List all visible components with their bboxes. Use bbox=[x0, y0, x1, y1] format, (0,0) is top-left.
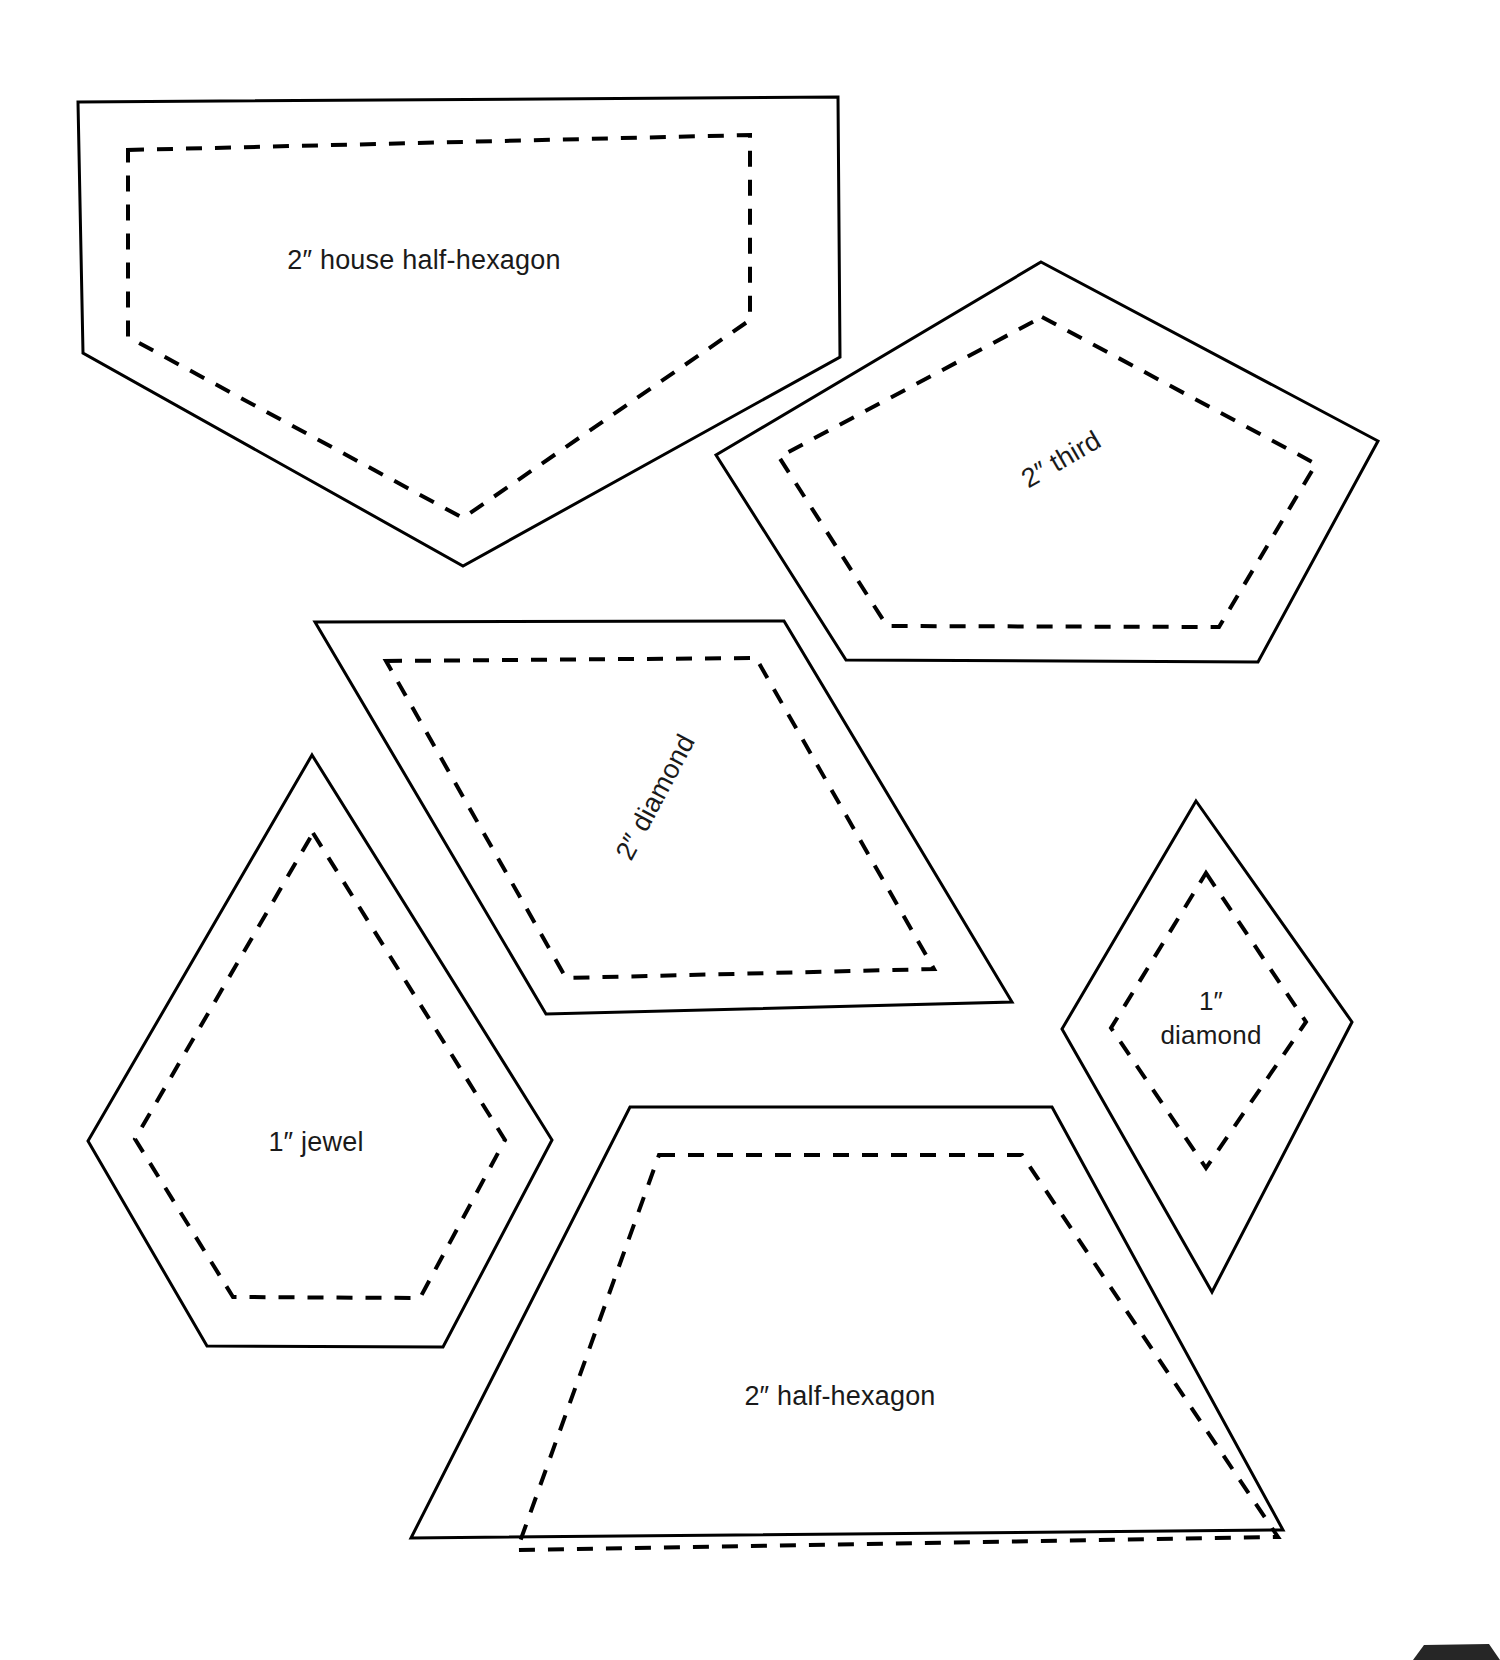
templates-canvas: 2″ house half-hexagon 2″ third 2″ diamon… bbox=[0, 0, 1500, 1660]
shape-house-half-hexagon[interactable]: 2″ house half-hexagon bbox=[78, 97, 840, 566]
house-half-hexagon-label: 2″ house half-hexagon bbox=[287, 245, 560, 275]
house-half-hexagon-cut-line bbox=[78, 97, 840, 566]
diamond-1in-label-line2: diamond bbox=[1160, 1020, 1261, 1050]
jewel-1in-label: 1″ jewel bbox=[268, 1127, 363, 1157]
template-sheet-page: 2″ house half-hexagon 2″ third 2″ diamon… bbox=[0, 0, 1500, 1660]
diamond-1in-label-line1: 1″ bbox=[1199, 986, 1223, 1016]
page-corner-mark bbox=[1413, 1644, 1500, 1660]
half-hexagon-2in-label: 2″ half-hexagon bbox=[744, 1381, 935, 1411]
